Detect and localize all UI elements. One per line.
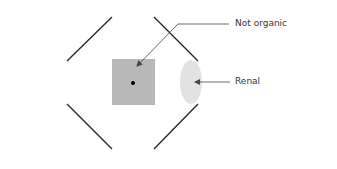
diagram-canvas: Not organic Renal	[0, 0, 337, 169]
not-organic-label: Not organic	[235, 19, 287, 28]
bracket-top-left	[67, 17, 112, 61]
bracket-bottom-right	[154, 104, 198, 149]
renal-label: Renal	[235, 77, 260, 86]
center-dot	[131, 81, 135, 85]
bracket-bottom-left	[67, 104, 112, 149]
